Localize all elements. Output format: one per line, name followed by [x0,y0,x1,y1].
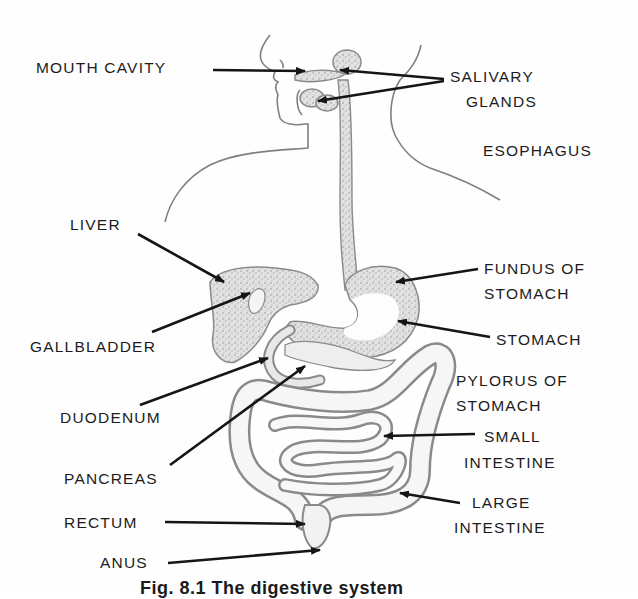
salivary-glands [295,50,361,111]
label-mouth-cavity: MOUTH CAVITY [36,55,166,80]
label-salivary-glands-line1: SALIVARY [450,64,534,89]
label-esophagus: ESOPHAGUS [483,138,592,163]
label-gallbladder: GALLBLADDER [30,334,156,359]
label-large-intestine-line2: INTESTINE [454,515,546,540]
label-small-intestine-line2: INTESTINE [464,450,556,475]
label-small-intestine-line1: SMALL [484,424,541,449]
rectum [303,505,331,548]
label-large-intestine-line1: LARGE [472,490,531,515]
figure-caption: Fig. 8.1 The digestive system [140,578,404,599]
label-anus: ANUS [100,550,148,575]
label-fundus-line2: STOMACH [484,281,570,306]
label-stomach: STOMACH [496,327,582,352]
label-pylorus-line1: PYLORUS OF [456,368,568,393]
label-salivary-glands-line2: GLANDS [466,89,537,114]
small-intestine [275,418,400,490]
label-liver: LIVER [70,212,121,237]
label-rectum: RECTUM [64,510,138,535]
label-pylorus-line2: STOMACH [456,393,542,418]
label-fundus-line1: FUNDUS OF [484,256,585,281]
esophagus [338,80,358,290]
label-pancreas: PANCREAS [64,466,158,491]
label-duodenum: DUODENUM [60,405,161,430]
